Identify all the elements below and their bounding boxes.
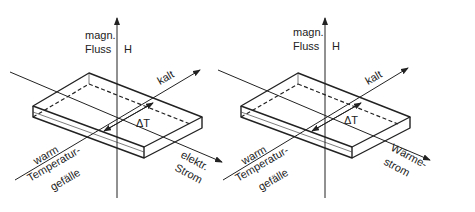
current-flow-arrow <box>10 72 222 162</box>
figure-left: magn. Fluss H kalt ΔT warm Temperatur- g… <box>10 18 222 198</box>
cold-label: kalt <box>363 68 384 87</box>
delta-t-label: ΔT <box>136 117 150 129</box>
cold-label: kalt <box>155 68 176 87</box>
field-symbol: H <box>124 43 132 55</box>
delta-t-label: ΔT <box>344 114 358 126</box>
figure-right: magn. Fluss H kalt ΔT warm Temperatur- g… <box>218 18 430 198</box>
magnetic-flux-label: magn. <box>293 26 324 38</box>
magnetic-flux-label: magn. <box>85 29 116 41</box>
magnetic-flux-label: Fluss <box>85 43 112 55</box>
magnetic-flux-label: Fluss <box>293 40 320 52</box>
field-symbol: H <box>332 40 340 52</box>
diagram-canvas: magn. Fluss H kalt ΔT warm Temperatur- g… <box>0 0 475 212</box>
